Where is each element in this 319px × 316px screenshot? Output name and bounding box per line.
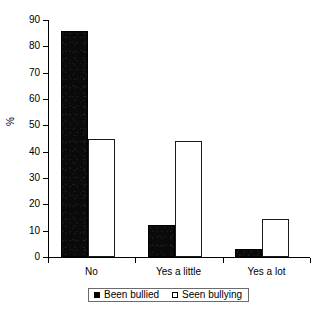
y-axis-tick-label: 90 bbox=[29, 15, 40, 25]
legend-label-seen-bullying: Seen bullying bbox=[182, 290, 242, 300]
x-axis-tick bbox=[310, 258, 311, 263]
filled-square-icon bbox=[94, 292, 100, 298]
y-axis-title: % bbox=[6, 117, 16, 126]
legend-item-been-bullied: Been bullied bbox=[94, 290, 159, 300]
bar-no-been-bullied bbox=[61, 31, 88, 257]
y-axis-tick-label: 70 bbox=[29, 68, 40, 78]
bar-yes-a-little-been-bullied bbox=[148, 225, 175, 257]
legend-label-been-bullied: Been bullied bbox=[104, 290, 159, 300]
chart-legend: Been bullied Seen bullying bbox=[88, 288, 249, 302]
bar-yes-a-lot-been-bullied bbox=[235, 249, 262, 257]
x-axis-tick bbox=[223, 258, 224, 263]
bar-yes-a-little-seen-bullying bbox=[175, 141, 202, 257]
y-axis-tick-label: 0 bbox=[34, 252, 40, 262]
y-axis-tick-label: 40 bbox=[29, 147, 40, 157]
bar-no-seen-bullying bbox=[88, 139, 115, 258]
hollow-square-icon bbox=[172, 292, 178, 298]
chart-figure: % 0102030405060708090 NoYes a littleYes … bbox=[0, 0, 319, 316]
y-axis-tick-label: 80 bbox=[29, 41, 40, 51]
x-axis-tick bbox=[48, 258, 49, 263]
plot-area bbox=[48, 20, 310, 257]
y-axis-tick-label: 50 bbox=[29, 120, 40, 130]
bar-yes-a-lot-seen-bullying bbox=[262, 219, 289, 257]
y-axis-tick-label: 10 bbox=[29, 226, 40, 236]
y-axis-tick-label: 30 bbox=[29, 173, 40, 183]
legend-item-seen-bullying: Seen bullying bbox=[172, 290, 242, 300]
y-axis-tick-label: 60 bbox=[29, 94, 40, 104]
x-axis-line bbox=[48, 257, 310, 258]
x-axis-tick bbox=[135, 258, 136, 263]
y-axis-tick-label: 20 bbox=[29, 199, 40, 209]
x-axis-category-label: No bbox=[48, 266, 135, 277]
x-axis-category-label: Yes a lot bbox=[223, 266, 310, 277]
x-axis-category-label: Yes a little bbox=[135, 266, 222, 277]
